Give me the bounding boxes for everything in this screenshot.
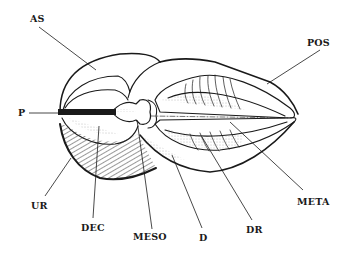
anatomy-drawing: [0, 0, 351, 256]
diagram-figure: AS POS P UR DEC MESO D DR META: [0, 0, 351, 256]
label-meso: MESO: [133, 232, 167, 242]
label-p: P: [18, 108, 25, 118]
leader-pos: [267, 50, 320, 84]
label-dr: DR: [246, 225, 263, 235]
leader-d: [172, 155, 202, 228]
leader-as: [39, 27, 96, 70]
label-d: D: [199, 233, 207, 243]
leader-ur: [45, 158, 71, 196]
label-ur: UR: [31, 201, 48, 211]
label-pos: POS: [307, 38, 330, 48]
label-as: AS: [30, 14, 45, 24]
label-dec: DEC: [81, 223, 105, 233]
label-meta: META: [297, 197, 329, 207]
proboscis-bar: [58, 109, 116, 115]
